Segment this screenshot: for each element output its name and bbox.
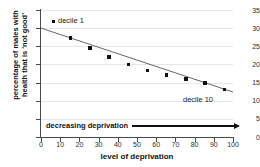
x-tick-label: 90 [204,141,224,148]
y-axis-title-line2: health that is 'not good' [20,0,29,119]
x-tick-label: 10 [50,141,70,148]
arrow-shaft [132,125,235,127]
deprivation-annotation: decreasing deprivation [46,121,240,130]
x-tick-label: 70 [165,141,185,148]
y-tick [36,137,40,138]
y-tick [36,101,40,102]
data-point [107,55,110,58]
arrow-head [234,123,240,129]
x-tick-label: 100 [223,141,243,148]
chart-container: 05101520253035 0102030405060708090100 de… [0,0,260,167]
y-tick-label: 20 [226,61,260,68]
legend-marker-icon [52,20,55,23]
y-tick [36,28,40,29]
data-point [223,88,226,91]
y-tick-label: 30 [226,25,260,32]
y-axis-title-line1: percentage of males with [11,0,20,119]
x-tick-label: 20 [69,141,89,148]
y-axis [40,9,41,138]
y-tick-label: 0 [226,134,260,141]
x-tick-label: 30 [89,141,109,148]
label-decile-10: decile 10 [183,96,213,104]
data-point [88,46,91,49]
data-point [127,63,130,66]
x-tick-label: 60 [146,141,166,148]
y-tick [36,119,40,120]
legend-decile-1: decile 1 [52,17,84,25]
x-axis-title: level of deprivation [41,152,233,161]
data-point [184,77,187,80]
y-axis-title: percentage of males with health that is … [11,0,29,119]
trend-line [41,10,233,137]
y-tick [36,10,40,11]
x-tick-label: 0 [31,141,51,148]
y-tick [36,83,40,84]
data-point [203,81,206,84]
y-tick-label: 35 [226,7,260,14]
legend-decile-1-label: decile 1 [58,17,84,25]
x-tick-label: 40 [108,141,128,148]
x-tick-label: 50 [127,141,147,148]
right-arrow-icon [132,122,240,129]
y-tick [36,46,40,47]
y-tick-label: 10 [226,97,260,104]
data-point [146,69,149,72]
data-point [69,36,72,39]
y-tick [36,64,40,65]
x-tick-label: 80 [185,141,205,148]
y-tick-label: 25 [226,43,260,50]
data-point [165,73,168,76]
y-tick-label: 15 [226,79,260,86]
deprivation-label: decreasing deprivation [46,121,128,130]
